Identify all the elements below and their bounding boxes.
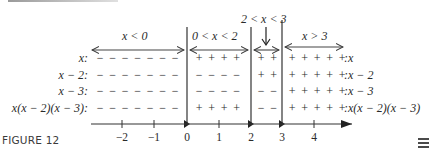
row-label-x-minus-2: x − 2:	[59, 68, 88, 82]
signs-row-xm3-gt3: +++++	[286, 84, 349, 98]
tick-label-neg1: −1	[148, 131, 160, 144]
figure-caption: FIGURE 12	[2, 134, 59, 146]
signs-row-x-lt0: −−−−−−−	[94, 51, 182, 65]
row-right-label-x-minus-3: :x − 3	[344, 84, 373, 98]
row-right-label-product: :x(x − 2)(x − 3)	[344, 101, 420, 115]
tick-label-neg2: −2	[116, 131, 128, 144]
signs-row-x-gt3: +++++	[286, 51, 349, 65]
interval-label-0to2: 0 < x < 2	[192, 29, 238, 43]
row-right-label-x: :x	[344, 51, 353, 65]
interval-label-gt3: x > 3	[302, 29, 327, 43]
tick-label-3: 3	[279, 131, 285, 144]
signs-row-product-gt3: +++++	[286, 101, 349, 115]
signs-row-xm3-0to2: −−−−	[193, 84, 243, 98]
row-right-label-x-minus-2: :x − 2	[344, 68, 373, 82]
signs-row-xm2-0to2: −−−−	[193, 68, 243, 82]
signs-row-product-lt0: −−−−−−−	[94, 101, 182, 115]
signs-row-product-2to3: −−	[255, 101, 280, 115]
signs-row-xm3-lt0: −−−−−−−	[94, 84, 182, 98]
signs-row-xm2-lt0: −−−−−−−	[94, 68, 182, 82]
signs-row-x-2to3: ++	[255, 51, 280, 65]
tick-label-1: 1	[216, 131, 222, 144]
tick-label-4: 4	[311, 131, 317, 144]
signs-row-xm2-2to3: ++	[255, 68, 280, 82]
signs-row-x-0to2: ++++	[193, 51, 243, 65]
signs-row-xm3-2to3: −−	[255, 84, 280, 98]
signs-row-product-0to2: ++++	[193, 101, 243, 115]
interval-label-lt0: x < 0	[122, 29, 147, 43]
row-label-x: x:	[79, 51, 88, 65]
row-label-product: x(x − 2)(x − 3):	[12, 101, 88, 115]
tick-label-0: 0	[184, 131, 190, 144]
signs-row-xm2-gt3: +++++	[286, 68, 349, 82]
row-label-x-minus-3: x − 3:	[59, 84, 88, 98]
hamburger-menu-icon[interactable]	[418, 138, 429, 150]
interval-label-2to3: 2 < x < 3	[241, 12, 287, 26]
tick-label-2: 2	[248, 131, 254, 144]
